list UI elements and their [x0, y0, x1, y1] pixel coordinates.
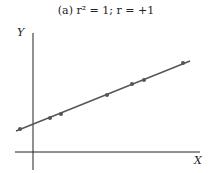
data-point: [48, 116, 52, 120]
scatter-plot: [0, 0, 212, 173]
data-point: [142, 78, 146, 82]
data-point: [59, 112, 63, 116]
data-point: [18, 127, 22, 131]
data-point: [181, 61, 185, 65]
regression-line: [16, 61, 190, 131]
data-point: [130, 82, 134, 86]
data-point: [105, 93, 109, 97]
